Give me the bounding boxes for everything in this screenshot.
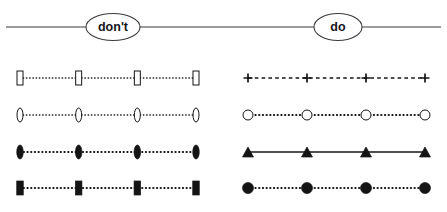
panel-do-panel [243,74,431,194]
marker-open-rect-tall [76,71,82,85]
marker-filled-circle [361,183,372,194]
panel-dont-panel [17,71,200,195]
marker-filled-circle [243,183,254,194]
figure-svg: don't do [0,0,447,212]
series-dont-row-4 [17,181,200,195]
marker-filled-circle [302,183,313,194]
marker-plus [362,74,371,83]
marker-open-ellipse-tall [193,108,199,122]
dont-bubble-label: don't [98,20,129,34]
marker-open-rect-tall [193,71,199,85]
marker-filled-ellipse-tall [17,145,24,159]
marker-plus [244,74,253,83]
marker-filled-rect-tall [17,181,24,195]
series-dont-row-3 [17,145,200,159]
series-do-row-3 [243,147,431,157]
marker-filled-ellipse-tall [75,145,82,159]
series-dont-row-1 [17,71,199,85]
marker-filled-ellipse-tall [193,145,200,159]
marker-plus [303,74,312,83]
series-dont-row-2 [17,108,199,122]
marker-open-ellipse-tall [134,108,140,122]
marker-open-circle [243,110,253,120]
marker-open-ellipse-tall [76,108,82,122]
series-do-row-4 [243,183,431,194]
marker-open-rect-tall [17,71,23,85]
marker-filled-ellipse-tall [134,145,141,159]
marker-open-ellipse-tall [17,108,23,122]
marker-open-circle [420,110,430,120]
figure-canvas: don't do [0,0,447,212]
marker-plus [421,74,430,83]
marker-open-circle [361,110,371,120]
marker-open-rect-tall [134,71,140,85]
series-do-row-2 [243,110,430,120]
marker-filled-circle [420,183,431,194]
series-do-row-1 [244,74,430,83]
do-bubble-label: do [330,20,346,34]
header-divider-group: don't do [6,14,441,41]
marker-filled-rect-tall [193,181,200,195]
marker-filled-rect-tall [134,181,141,195]
marker-open-circle [302,110,312,120]
marker-filled-rect-tall [75,181,82,195]
series-panels-group [17,71,431,195]
